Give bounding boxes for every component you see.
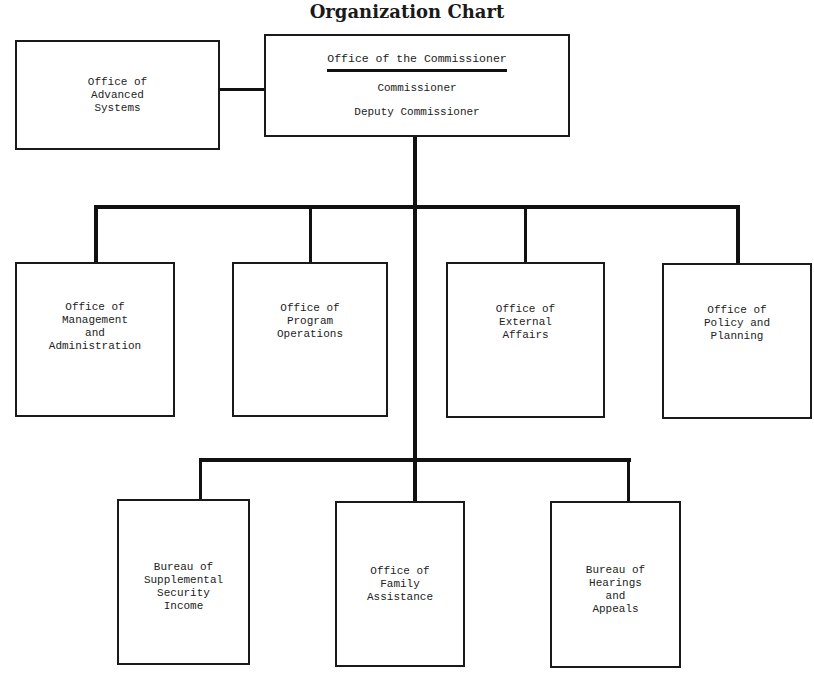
box-text: Appeals	[592, 603, 638, 616]
box-office-of-external-affairs: Office of External Affairs	[446, 262, 605, 418]
box-text: Planning	[711, 330, 764, 343]
box-text: Security	[157, 587, 210, 600]
box-text: and	[85, 327, 105, 340]
deputy-commissioner-role: Deputy Commissioner	[354, 106, 479, 119]
box-text: Management	[62, 314, 128, 327]
box-text: Supplemental	[144, 574, 223, 587]
box-text: Family	[380, 578, 420, 591]
box-text: Systems	[94, 102, 140, 115]
chart-title: Organization Chart	[0, 1, 814, 22]
box-bureau-of-hearings-and-appeals: Bureau of Hearings and Appeals	[550, 501, 681, 668]
box-text: Office of	[370, 565, 429, 578]
connector-tier2-3	[524, 207, 527, 264]
box-text: Office of	[65, 301, 124, 314]
box-text: Office of	[707, 304, 766, 317]
commissioner-role: Commissioner	[377, 82, 456, 95]
box-text: Bureau of	[154, 561, 213, 574]
connector-main-trunk	[413, 136, 417, 502]
box-text: Operations	[277, 328, 343, 341]
box-office-of-family-assistance: Office of Family Assistance	[335, 501, 465, 667]
connector-tier3-bar	[199, 458, 631, 462]
connector-tier2-1	[94, 205, 98, 263]
connector-tier3-1	[199, 458, 202, 500]
box-text: Advanced	[91, 89, 144, 102]
connector-advanced-systems	[218, 88, 266, 91]
box-text: Affairs	[502, 329, 548, 342]
box-text: Hearings	[589, 577, 642, 590]
connector-tier2-2	[309, 207, 312, 264]
connector-tier2-4	[736, 205, 740, 264]
box-text: Bureau of	[586, 564, 645, 577]
connector-tier2-bar	[94, 205, 740, 209]
box-text: Administration	[49, 340, 141, 353]
box-office-of-advanced-systems: Office of Advanced Systems	[15, 40, 220, 150]
box-text: Policy and	[704, 317, 770, 330]
box-text: Office of	[280, 302, 339, 315]
box-text: Program	[287, 315, 333, 328]
box-office-of-policy-and-planning: Office of Policy and Planning	[662, 263, 812, 419]
box-office-of-program-operations: Office of Program Operations	[232, 262, 388, 417]
box-text: Assistance	[367, 591, 433, 604]
box-text: and	[606, 590, 626, 603]
box-text: Income	[164, 600, 204, 613]
commissioner-heading: Office of the Commissioner	[327, 52, 506, 72]
box-text: Office of	[496, 303, 555, 316]
box-office-of-the-commissioner: Office of the Commissioner Commissioner …	[264, 34, 570, 137]
connector-tier3-3	[627, 458, 630, 502]
box-text: External	[499, 316, 552, 329]
box-office-of-management-and-administration: Office of Management and Administration	[15, 262, 175, 417]
box-text: Office of	[88, 76, 147, 89]
box-bureau-of-supplemental-security-income: Bureau of Supplemental Security Income	[117, 499, 250, 665]
